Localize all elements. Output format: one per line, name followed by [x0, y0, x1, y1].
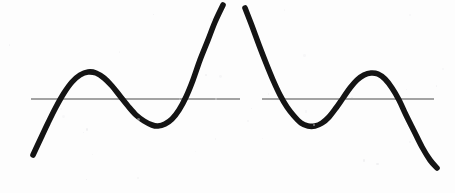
curve-left-branch — [33, 5, 223, 155]
figure-container — [0, 0, 455, 193]
function-graph — [0, 0, 455, 193]
curve-group — [33, 5, 437, 168]
curve-right-branch — [245, 8, 437, 168]
